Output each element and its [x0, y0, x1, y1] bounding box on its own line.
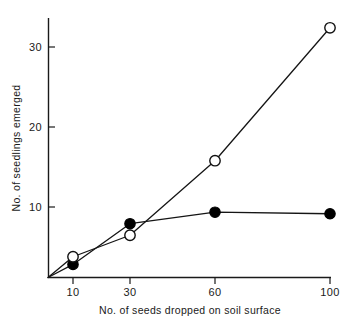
- x-tick-label-100: 100: [320, 286, 340, 298]
- series-markers-filled: [68, 207, 335, 270]
- chart-plot-area: 30 20 10 10 30 60 100 No. of seedlings e…: [0, 0, 348, 324]
- data-point: [125, 230, 135, 240]
- data-point: [125, 219, 135, 229]
- chart-figure: 30 20 10 10 30 60 100 No. of seedlings e…: [0, 0, 348, 324]
- data-point: [210, 207, 220, 217]
- data-point: [325, 209, 335, 219]
- x-tick-label-30: 30: [123, 286, 136, 298]
- x-axis-label: No. of seeds dropped on soil surface: [99, 304, 281, 316]
- x-tick-label-60: 60: [208, 286, 221, 298]
- series-markers-open: [68, 23, 335, 262]
- series-line-filled: [48, 212, 330, 277]
- series-line-open: [48, 28, 330, 278]
- data-point: [210, 156, 220, 166]
- x-tick-label-10: 10: [66, 286, 79, 298]
- y-axis-label: No. of seedlings emerged: [10, 85, 22, 212]
- y-tick-label-20: 20: [29, 121, 42, 133]
- data-point: [68, 252, 78, 262]
- y-tick-label-30: 30: [29, 41, 42, 53]
- y-tick-label-10: 10: [29, 201, 42, 213]
- x-axis-ticks: [73, 278, 330, 285]
- data-point: [325, 23, 335, 33]
- y-axis-ticks: [49, 47, 56, 207]
